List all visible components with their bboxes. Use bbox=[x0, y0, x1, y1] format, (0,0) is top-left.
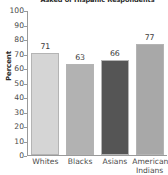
bar[interactable] bbox=[66, 64, 94, 155]
x-tick-label-line: Whites bbox=[28, 158, 63, 167]
y-axis-tick-labels: 1009080706050403020100 bbox=[0, 11, 24, 156]
x-tick-label: Whites bbox=[28, 158, 63, 167]
y-tick-label: 20 bbox=[0, 123, 24, 131]
y-tick-label: 70 bbox=[0, 51, 24, 59]
y-tick-mark bbox=[24, 11, 27, 12]
x-tick-label: Blacks bbox=[63, 158, 98, 167]
y-tick-mark bbox=[24, 69, 27, 70]
y-tick-label: 90 bbox=[0, 22, 24, 30]
y-tick-mark bbox=[24, 127, 27, 128]
y-tick-label: 10 bbox=[0, 138, 24, 146]
plot-area: 71636677 bbox=[27, 11, 167, 156]
bar-slot: 63 bbox=[63, 11, 98, 155]
y-tick-mark bbox=[24, 84, 27, 85]
x-axis-category-labels: WhitesBlacksAsiansAmericanIndians bbox=[28, 158, 167, 175]
bar-slot: 77 bbox=[132, 11, 167, 155]
y-tick-label: 0 bbox=[0, 152, 24, 160]
bar[interactable] bbox=[136, 44, 164, 155]
x-tick-label: AmericanIndians bbox=[132, 158, 167, 175]
x-tick-label: Asians bbox=[98, 158, 133, 167]
bar-value-label: 66 bbox=[98, 50, 133, 58]
y-tick-mark bbox=[24, 156, 27, 157]
bar-value-label: 77 bbox=[132, 34, 167, 42]
y-tick-label: 40 bbox=[0, 94, 24, 102]
bar-chart: Asked of Hispanic Respondents Percent 10… bbox=[0, 0, 168, 175]
y-tick-label: 100 bbox=[0, 7, 24, 15]
x-axis-line bbox=[27, 155, 167, 156]
y-tick-mark bbox=[24, 142, 27, 143]
y-tick-mark bbox=[24, 55, 27, 56]
y-tick-label: 30 bbox=[0, 109, 24, 117]
bar[interactable] bbox=[101, 60, 129, 155]
y-tick-label: 50 bbox=[0, 80, 24, 88]
y-tick-mark bbox=[24, 113, 27, 114]
bar-value-label: 63 bbox=[63, 54, 98, 62]
y-tick-mark bbox=[24, 26, 27, 27]
x-tick-label-line: Asians bbox=[98, 158, 133, 167]
y-tick-label: 60 bbox=[0, 65, 24, 73]
bar-slot: 66 bbox=[98, 11, 133, 155]
y-tick-mark bbox=[24, 40, 27, 41]
bar-slot: 71 bbox=[28, 11, 63, 155]
bar-value-label: 71 bbox=[28, 43, 63, 51]
x-tick-label-line: Indians bbox=[132, 167, 167, 175]
x-tick-label-line: Blacks bbox=[63, 158, 98, 167]
bar-series: 71636677 bbox=[28, 11, 167, 155]
bar[interactable] bbox=[31, 53, 59, 155]
chart-title: Asked of Hispanic Respondents bbox=[27, 0, 168, 4]
y-tick-mark bbox=[24, 98, 27, 99]
y-tick-label: 80 bbox=[0, 36, 24, 44]
